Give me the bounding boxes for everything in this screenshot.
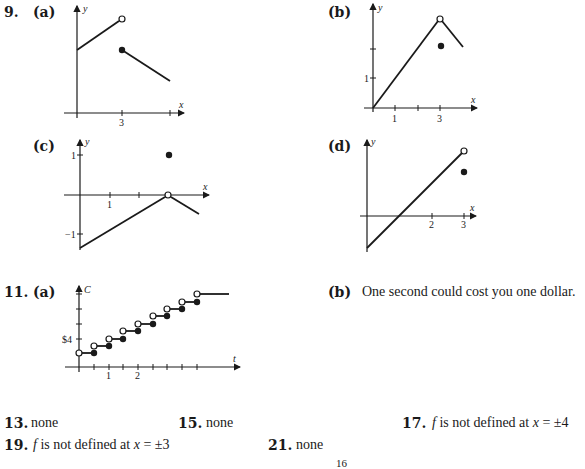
- problem-11a-label: (a): [33, 284, 55, 300]
- x-tick-label-2: 2: [429, 219, 434, 230]
- problem-11b-answer: One second could cost you one dollar.: [362, 284, 575, 300]
- graph-11a: C t $4 1 2: [62, 284, 240, 381]
- x-tick-label-1: 1: [107, 199, 112, 210]
- page-number: 16: [336, 457, 347, 469]
- graph-9a: y x 3: [64, 3, 184, 128]
- open-point: [119, 16, 125, 22]
- problem-19-number: 19.: [4, 437, 28, 453]
- problem-21-number: 21.: [268, 437, 292, 453]
- y-axis-label: y: [84, 136, 90, 147]
- y-tick-label-1: 1: [71, 150, 76, 161]
- x-axis-label: x: [202, 181, 208, 192]
- closed-point: [461, 169, 467, 175]
- problem-17-answer: f is not defined at x = ±4: [432, 415, 569, 431]
- x-axis-label: x: [470, 94, 476, 105]
- x-axis-label: x: [469, 202, 475, 213]
- y-axis-label: C: [84, 284, 91, 295]
- y-tick-label-4: $4: [62, 334, 72, 345]
- y-tick-label-1: 1: [364, 73, 369, 84]
- closed-points: [91, 299, 200, 356]
- problem-17-number: 17.: [402, 415, 426, 431]
- graphs-canvas: y x 3 y x 1 3 1 y x 1 1 −1: [0, 0, 585, 469]
- problem-13-number: 13.: [4, 415, 28, 431]
- open-point: [165, 192, 171, 198]
- answer-rhs: = ±4: [539, 415, 569, 430]
- open-point: [437, 16, 443, 22]
- problem-11b-label: (b): [328, 284, 351, 300]
- answer-rhs: = ±3: [140, 437, 170, 452]
- x-tick-label-1: 1: [392, 113, 397, 124]
- graph-9b: y x 1 3 1: [364, 2, 477, 124]
- problem-13-answer: none: [31, 415, 58, 431]
- x-tick-label-2: 2: [135, 370, 140, 381]
- x-tick-label-1: 1: [106, 370, 111, 381]
- graph-9d: y x 2 3: [360, 136, 476, 252]
- x-axis-label: t: [233, 353, 236, 364]
- x-axis-label: x: [178, 99, 184, 110]
- x-tick-label-3: 3: [437, 113, 442, 124]
- y-axis-label: y: [377, 2, 383, 13]
- problem-19-answer: f is not defined at x = ±3: [33, 437, 170, 453]
- problem-21-answer: none: [296, 437, 323, 453]
- y-axis-label: y: [82, 3, 88, 14]
- closed-point: [166, 152, 172, 158]
- closed-point: [119, 47, 125, 53]
- closed-point: [438, 43, 444, 49]
- problem-15-number: 15.: [178, 415, 202, 431]
- y-tick-label-neg1: −1: [65, 229, 76, 240]
- problem-15-answer: none: [206, 415, 233, 431]
- x-tick-label: 3: [119, 117, 124, 128]
- problem-11-number: 11.: [4, 284, 28, 300]
- graph-9c: y x 1 1 −1: [64, 136, 209, 250]
- answer-text: is not defined at: [436, 415, 533, 430]
- y-axis-label: y: [370, 136, 376, 147]
- open-points: [76, 291, 200, 356]
- open-point: [461, 148, 467, 154]
- x-tick-label-3: 3: [461, 219, 466, 230]
- answer-text: is not defined at: [37, 437, 134, 452]
